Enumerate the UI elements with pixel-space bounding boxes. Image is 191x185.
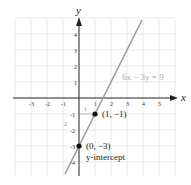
point-2-label: (0, −3): [86, 141, 111, 151]
equation-label: 6x − 3y = 9: [122, 72, 164, 82]
svg-text:4: 4: [74, 32, 77, 38]
x-axis-label: x: [180, 91, 186, 103]
svg-text:-2: -2: [70, 128, 75, 134]
svg-text:-3: -3: [29, 101, 34, 107]
y-axis-label: y: [75, 4, 81, 16]
point-2-marker: [76, 143, 81, 148]
x-axis-arrow-icon: [170, 95, 178, 101]
point-1-label: (1, −1): [102, 109, 127, 119]
svg-text:-1: -1: [70, 112, 75, 118]
graph: x y -3 -2 -1 1 2 3 4 5 4 3 2 1 -1 -2 -3 …: [0, 0, 191, 185]
svg-text:2: 2: [110, 101, 113, 107]
svg-text:1: 1: [74, 80, 77, 86]
x-tick-labels: -3 -2 -1 1 2 3 4 5: [29, 101, 161, 107]
svg-text:-2: -2: [45, 101, 50, 107]
svg-text:3: 3: [126, 101, 129, 107]
svg-text:-3: -3: [70, 144, 75, 150]
point-1-marker: [92, 111, 97, 116]
run-label: 1: [84, 106, 87, 112]
svg-text:4: 4: [142, 101, 145, 107]
svg-text:5: 5: [158, 101, 161, 107]
svg-text:3: 3: [74, 48, 77, 54]
rise-label: 2: [64, 121, 67, 127]
intercept-label: y-intercept: [86, 152, 125, 162]
svg-text:1: 1: [94, 101, 97, 107]
svg-text:2: 2: [74, 64, 77, 70]
svg-text:-1: -1: [61, 101, 66, 107]
